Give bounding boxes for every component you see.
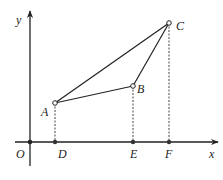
label-x-axis: x — [208, 147, 215, 161]
label-c: C — [176, 19, 185, 33]
label-f: F — [164, 147, 173, 161]
label-origin: O — [16, 147, 25, 161]
point-e — [131, 140, 135, 144]
label-y-axis: y — [15, 13, 22, 27]
label-a: A — [40, 105, 49, 119]
label-e: E — [129, 147, 138, 161]
point-b — [131, 84, 136, 89]
coordinate-diagram: y x O A B C D E F — [0, 0, 223, 180]
label-d: D — [57, 147, 67, 161]
point-d — [53, 140, 57, 144]
point-f — [167, 140, 171, 144]
label-b: B — [137, 82, 145, 96]
segment-bc — [133, 23, 169, 86]
point-origin — [28, 140, 33, 145]
point-c — [167, 21, 172, 26]
point-a — [53, 101, 58, 106]
